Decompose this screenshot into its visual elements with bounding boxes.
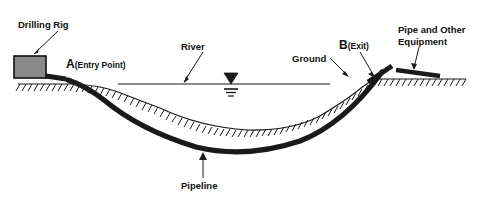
- label-exit-point-letter: B: [339, 38, 348, 52]
- label-exit-point-paren: (Exit): [348, 41, 369, 51]
- arrowhead-river: [184, 76, 189, 83]
- label-entry-point: A(Entry Point): [66, 57, 126, 71]
- arrowhead-pipe-equipment: [411, 63, 417, 70]
- label-pipe-equipment-line1: Pipe and Other: [398, 24, 466, 35]
- rig-to-entry-connector: [46, 76, 66, 79]
- label-ground: Ground: [292, 53, 326, 64]
- hdd-river-crossing-diagram: Drilling Rig A(Entry Point) River Ground…: [0, 0, 487, 197]
- drilling-rig-box: [14, 56, 46, 78]
- label-entry-point-letter: A: [66, 57, 75, 71]
- arrowhead-pipeline: [199, 152, 207, 160]
- pipe-and-equipment-bar: [396, 70, 440, 76]
- label-pipeline: Pipeline: [181, 180, 217, 191]
- leader-lines: [34, 31, 419, 178]
- label-pipe-equipment-line2: Equipment: [398, 36, 448, 47]
- diagram-canvas: Drilling Rig A(Entry Point) River Ground…: [0, 0, 487, 197]
- label-exit-point: B(Exit): [339, 38, 369, 52]
- label-river: River: [181, 41, 205, 52]
- label-entry-point-paren: (Entry Point): [75, 60, 126, 70]
- arrowhead-ground: [342, 71, 349, 77]
- label-drilling-rig: Drilling Rig: [18, 19, 69, 30]
